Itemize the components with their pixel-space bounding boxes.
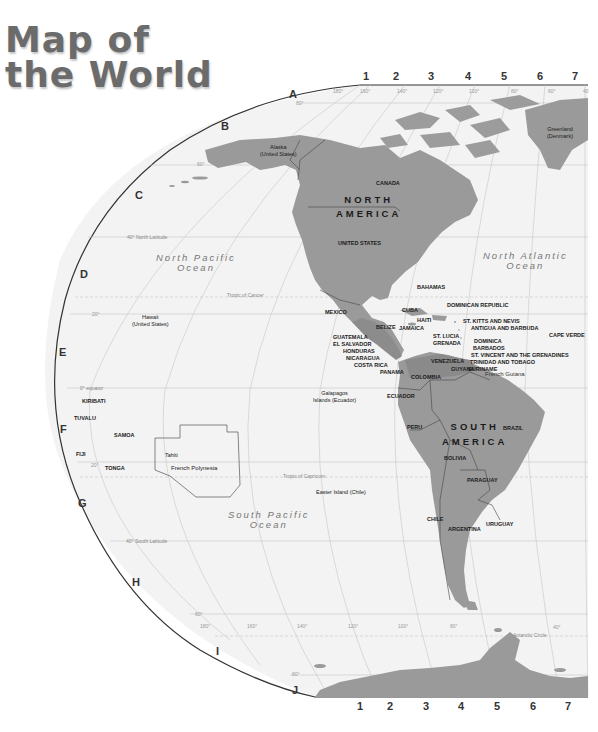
lon-label-bottom-180: 180° (200, 623, 210, 629)
place-label-galapagos: Galapagos Islands (Ecuador) (313, 390, 356, 403)
grid-col-5-top: 5 (501, 70, 507, 82)
country-label-fiji: FIJI (76, 451, 85, 457)
country-label-mexico: MEXICO (325, 309, 347, 315)
lon-label-top-60: 60° (548, 88, 556, 94)
ocean-label-north-pacific: North Pacific Ocean (156, 253, 236, 273)
country-label-trinidad: TRINIDAD AND TOBAGO (470, 359, 535, 365)
place-label-hawaii: Hawaii (United States) (132, 314, 169, 327)
lat-label-20s: 20° (91, 462, 99, 468)
lat-label-60n: 60° (197, 161, 205, 167)
grid-col-6-top: 6 (537, 70, 543, 82)
grid-col-3-top: 3 (428, 70, 434, 82)
country-label-dominica: DOMINICA (474, 338, 502, 344)
tropic-of-cancer-label: Tropic of Cancer (227, 292, 264, 298)
country-label-haiti: HAITI (417, 317, 431, 323)
country-label-peru: PERU (407, 424, 422, 430)
lon-label-bottom-80: 80° (450, 623, 458, 629)
lon-label-top-140: 140° (397, 88, 407, 94)
country-label-dominican-republic: DOMINICAN REPUBLIC (447, 302, 508, 308)
lon-label-bottom-40: 40° (553, 624, 561, 630)
country-label-chile: CHILE (427, 516, 444, 522)
lon-label-top-100: 100° (469, 88, 479, 94)
grid-col-1-bottom: 1 (357, 700, 363, 712)
grid-row-i: I (216, 645, 219, 657)
place-label-tahiti: Tahiti (165, 452, 178, 459)
tropic-of-capricorn-label: Tropic of Capricorn (283, 473, 325, 479)
ocean-label-south-pacific: South Pacific Ocean (228, 510, 309, 530)
grid-col-7-bottom: 7 (565, 700, 571, 712)
country-label-tuvalu: TUVALU (74, 415, 96, 421)
grid-row-g: G (78, 497, 87, 509)
lat-label-40n: 40° North Latitude (127, 234, 167, 240)
country-label-costa-rica: COSTA RICA (354, 362, 388, 368)
grid-row-j: J (292, 684, 298, 696)
lat-label-20n: 20° (92, 311, 100, 317)
country-label-barbados: BARBADOS (473, 345, 505, 351)
grid-col-3-bottom: 3 (423, 700, 429, 712)
country-label-cape-verde: CAPE VERDE (549, 332, 585, 338)
grid-row-a: A (289, 88, 297, 100)
country-label-uruguay: URUGUAY (486, 521, 513, 527)
grid-row-c: C (135, 189, 143, 201)
lat-label-80s: 80° (292, 671, 300, 677)
country-label-st-kitts: ST. KITTS AND NEVIS (463, 318, 520, 324)
grid-col-2-top: 2 (393, 70, 399, 82)
country-label-grenada: GRENADA (433, 340, 461, 346)
grid-col-5-bottom: 5 (494, 700, 500, 712)
lat-label-40s: 40° South Latitude (126, 538, 167, 544)
grid-col-2-bottom: 2 (387, 700, 393, 712)
country-label-tonga: TONGA (105, 465, 125, 471)
country-label-brazil: BRAZIL (503, 425, 523, 431)
country-label-venezuela: VENEZUELA (431, 358, 464, 364)
country-label-panama: PANAMA (380, 369, 404, 375)
grid-col-7-top: 7 (572, 70, 578, 82)
country-label-bolivia: BOLIVIA (444, 455, 466, 461)
country-label-guatemala: GUATEMALA (333, 334, 368, 340)
country-label-united-states: UNITED STATES (338, 240, 381, 246)
lat-label-60s: 60° (195, 611, 203, 617)
lon-label-top-80: 80° (511, 88, 519, 94)
place-label-easter-island: Easter Island (Chile) (316, 489, 366, 496)
grid-col-1-top: 1 (363, 70, 369, 82)
lon-label-bottom-100: 100° (398, 623, 408, 629)
lon-label-top-160: 160° (360, 88, 370, 94)
country-label-st-vincent: ST. VINCENT AND THE GRENADINES (471, 352, 569, 358)
country-label-colombia: COLOMBIA (411, 374, 441, 380)
country-label-nicaragua: NICARAGUA (346, 355, 380, 361)
grid-col-6-bottom: 6 (530, 700, 536, 712)
antarctic-circle-label: Antarctic Circle (513, 632, 547, 638)
ocean-label-north-atlantic: North Atlantic Ocean (483, 251, 568, 271)
country-label-el-salvador: EL SALVADOR (333, 341, 372, 347)
lon-label-top-40: 40 (583, 88, 589, 94)
grid-col-4-bottom: 4 (458, 700, 464, 712)
country-label-samoa: SAMOA (114, 432, 134, 438)
grid-row-h: H (132, 576, 140, 588)
country-label-belize: BELIZE (376, 324, 396, 330)
country-label-canada: CANADA (376, 180, 400, 186)
lon-label-bottom-140: 140° (297, 623, 307, 629)
place-label-greenland: Greenland (Denmark) (547, 126, 573, 139)
country-label-kiribati: KIRIBATI (82, 398, 105, 404)
grid-row-b: B (221, 120, 229, 132)
country-label-bahamas: BAHAMAS (417, 284, 445, 290)
lon-label-bottom-160: 160° (247, 623, 257, 629)
grid-row-f: F (60, 423, 67, 435)
grid-row-e: E (59, 346, 66, 358)
lon-label-top-180: 180° (333, 88, 343, 94)
country-label-suriname: SURINAME (468, 366, 497, 372)
country-label-ecuador: ECUADOR (387, 393, 415, 399)
grid-col-4-top: 4 (465, 70, 471, 82)
place-label-french-polynesia: French Polynesia (171, 465, 217, 472)
continent-label-south-america: SOUTH AMERICA (442, 419, 507, 449)
country-label-st-lucia: ST. LUCIA (433, 333, 459, 339)
lat-label-80n: 80° (296, 100, 304, 106)
country-label-honduras: HONDURAS (343, 348, 375, 354)
country-label-antigua: ANTIGUA AND BARBUDA (471, 325, 538, 331)
country-label-paraguay: PARAGUAY (467, 477, 498, 483)
grid-row-d: D (80, 268, 88, 280)
country-label-jamaica: JAMAICA (399, 325, 424, 331)
lat-label-equator: 0° equator (80, 385, 103, 391)
lon-label-top-120: 120° (433, 88, 443, 94)
continent-label-north-america: NORTH AMERICA (336, 193, 401, 221)
place-label-alaska: Alaska (United States) (260, 144, 297, 157)
